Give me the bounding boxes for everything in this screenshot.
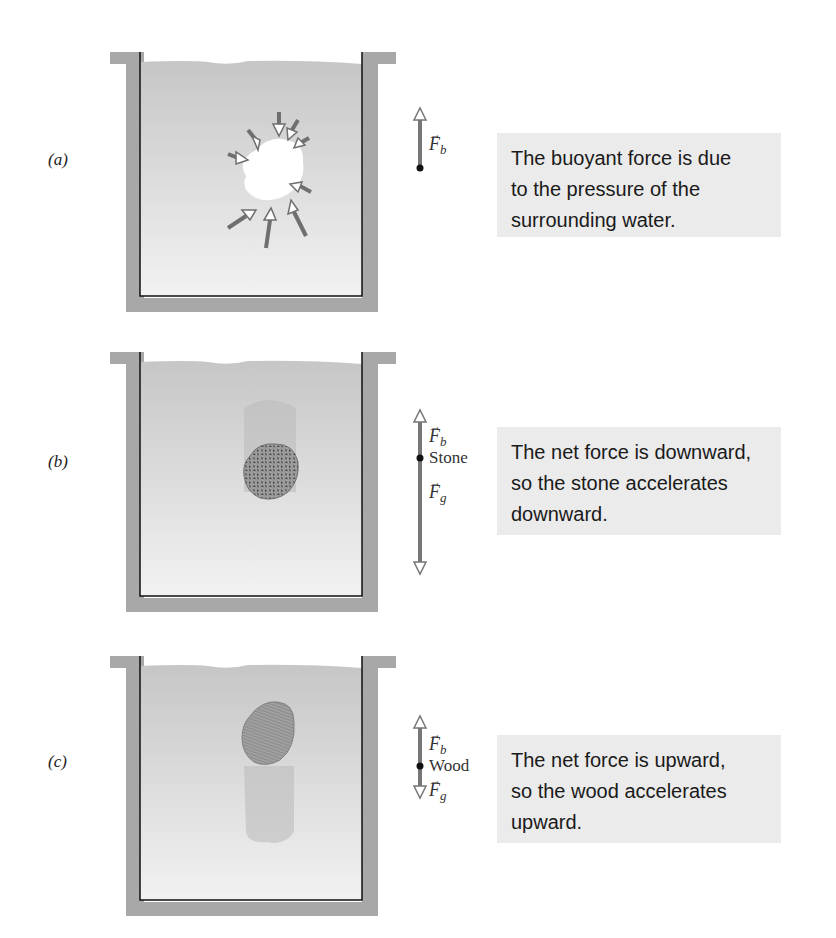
panel-label: (a) [48, 150, 68, 170]
caption-line: The net force is downward, [511, 437, 767, 468]
panel-label: (b) [48, 452, 68, 472]
buoyant-force-arrowhead [414, 108, 426, 120]
caption-b: The net force is downward, so the stone … [497, 427, 781, 535]
object-point [417, 763, 424, 770]
object-point [417, 455, 424, 462]
caption-line: to the pressure of the [511, 174, 767, 205]
object-point [417, 165, 424, 172]
water-tank [108, 352, 400, 614]
caption-line: downward. [511, 499, 767, 530]
force-diagram-c: Fb→ Wood Fg→ [405, 714, 495, 834]
buoyant-force-label: Fb→ [429, 134, 447, 155]
panel-b: (b) Fb→ Stone Fg→ The net force is downw… [0, 352, 836, 657]
caption-line: surrounding water. [511, 205, 767, 236]
panel-label: (c) [48, 752, 67, 772]
buoyant-force-arrowhead [414, 716, 426, 728]
buoyant-force-arrowhead [414, 410, 426, 422]
force-diagram-a: Fb→ [405, 52, 465, 192]
caption-line: so the stone accelerates [511, 468, 767, 499]
gravity-force-label: Fg→ [429, 780, 447, 801]
panel-c: (c) Fb→ Wood Fg→ The net force is upward… [0, 656, 836, 938]
panel-a: (a) [0, 52, 836, 357]
caption-line: so the wood accelerates [511, 776, 767, 807]
force-diagram-b: Fb→ Stone Fg→ [405, 408, 495, 578]
caption-line: The net force is upward, [511, 745, 767, 776]
water-tank [108, 656, 400, 918]
object-name-stone: Stone [429, 448, 468, 468]
buoyant-force-label: Fb→ [429, 734, 447, 755]
caption-line: upward. [511, 807, 767, 838]
water-tank [108, 52, 400, 314]
caption-a: The buoyant force is due to the pressure… [497, 133, 781, 237]
buoyant-force-label: Fb→ [429, 426, 447, 447]
caption-line: The buoyant force is due [511, 143, 767, 174]
caption-c: The net force is upward, so the wood acc… [497, 735, 781, 843]
gravity-force-label: Fg→ [429, 482, 447, 503]
object-name-wood: Wood [429, 756, 469, 776]
gravity-force-arrowhead [414, 786, 426, 798]
gravity-force-arrowhead [414, 562, 426, 574]
